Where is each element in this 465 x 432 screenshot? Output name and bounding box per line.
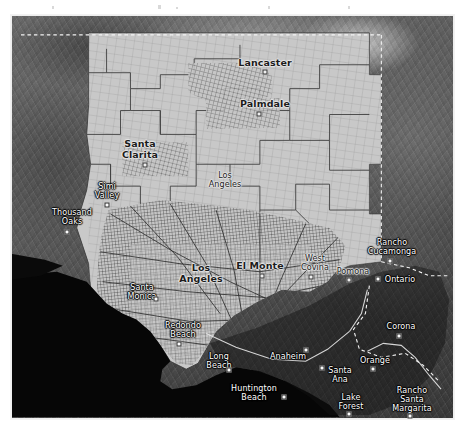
- satellite-map-canvas[interactable]: LancasterPalmdaleSanta ClaritaLos Angele…: [10, 14, 455, 420]
- city-marker-dot: [376, 277, 381, 282]
- map-page: LancasterPalmdaleSanta ClaritaLos Angele…: [0, 0, 465, 432]
- city-marker-dot: [177, 342, 182, 347]
- tract-polygons-palmdale: [206, 98, 280, 129]
- city-marker-dot: [105, 203, 110, 208]
- city-marker-dot: [408, 414, 413, 419]
- tract-polygons-santa-clarita: [122, 142, 188, 176]
- city-marker-dot: [227, 368, 232, 373]
- city-marker-dot: [282, 395, 287, 400]
- map-vector-layer: [11, 15, 454, 419]
- city-marker-dot: [304, 348, 309, 353]
- city-marker-dot: [65, 230, 70, 235]
- city-marker-dot: [388, 259, 393, 264]
- top-text-artifact: [0, 0, 465, 13]
- city-marker-dot: [347, 412, 352, 417]
- city-marker-dot: [143, 163, 148, 168]
- city-marker-dot: [371, 367, 376, 372]
- city-marker-dot: [397, 334, 402, 339]
- city-marker-dot: [320, 366, 325, 371]
- city-marker-dot: [263, 70, 268, 75]
- city-marker-dot: [309, 275, 314, 280]
- city-marker-dot: [260, 274, 265, 279]
- city-marker-dot: [154, 297, 159, 302]
- city-marker-dot: [257, 112, 262, 117]
- city-marker-dot: [347, 278, 352, 283]
